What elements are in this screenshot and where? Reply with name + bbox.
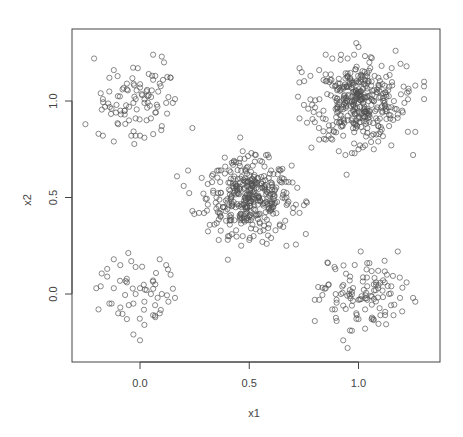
data-point [264,241,269,246]
data-point [395,115,400,120]
data-point [392,302,397,307]
data-point [338,52,343,57]
data-point [151,132,156,137]
data-point [240,149,245,154]
data-point [400,309,405,314]
data-point [391,99,396,104]
data-point [295,185,300,190]
data-point [111,68,116,73]
data-point [126,250,131,255]
data-point [168,272,173,277]
scatter-plot: 0.00.51.0 0.00.51.0 x1 x2 [0,0,463,437]
data-point [371,147,376,152]
data-point [159,54,164,59]
data-point [283,218,288,223]
data-point [118,263,123,268]
data-point [345,345,350,350]
data-point [405,97,410,102]
data-point [340,290,345,295]
data-point [199,175,204,180]
data-point [389,66,394,71]
data-point [413,83,418,88]
data-point [141,307,146,312]
data-point [201,191,206,196]
data-point [290,180,295,185]
data-point [142,135,147,140]
data-point [234,228,239,233]
data-point [138,82,143,87]
y-tick-label: 0.5 [47,190,59,205]
data-point [190,125,195,130]
data-point [422,97,427,102]
data-point [312,318,317,323]
data-point [395,249,400,254]
data-point [218,228,223,233]
data-point [181,183,186,188]
data-point [397,295,402,300]
data-point [218,180,223,185]
data-point [239,243,244,248]
data-point [393,48,398,53]
data-point [134,88,139,93]
data-point [341,338,346,343]
data-point [142,322,147,327]
data-point [398,61,403,66]
data-point [94,286,99,291]
data-point [108,111,113,116]
data-point [118,305,123,310]
data-point [289,163,294,168]
data-point [328,72,333,77]
data-point [297,210,302,215]
data-point [130,286,135,291]
data-point [222,155,227,160]
x-tick-label: 0.0 [132,377,147,389]
data-point [284,243,289,248]
data-point [364,267,369,272]
data-point [380,288,385,293]
data-point [330,56,335,61]
data-point [140,264,145,269]
data-point [130,76,135,81]
data-point [304,120,309,125]
data-point [113,110,118,115]
data-point [371,121,376,126]
data-point [362,54,367,59]
y-axis: 0.00.51.0 [47,93,72,301]
data-point [349,303,354,308]
data-point [134,107,139,112]
data-point [344,172,349,177]
data-point [111,257,116,262]
data-point [336,149,341,154]
y-tick-label: 0.0 [47,286,59,301]
data-point [384,322,389,327]
data-point [293,242,298,247]
data-point [83,122,88,127]
data-point [352,52,357,57]
data-point [340,284,345,289]
data-point [151,286,156,291]
data-point [363,326,368,331]
data-point [321,108,326,113]
data-point [166,95,171,100]
data-point [227,168,232,173]
data-point [363,307,368,312]
data-point [92,56,97,61]
data-point [131,332,136,337]
data-point [186,168,191,173]
data-point [240,234,245,239]
data-point [385,283,390,288]
data-point [205,229,210,234]
data-point [295,94,300,99]
x-tick-label: 1.0 [351,377,366,389]
data-point [260,159,265,164]
data-point [411,152,416,157]
data-point [333,315,338,320]
x-axis-title: x1 [248,407,260,419]
data-point [129,259,134,264]
data-point [164,100,169,105]
data-point [405,129,410,134]
data-point [99,107,104,112]
data-point [333,292,338,297]
data-point [390,273,395,278]
data-point [273,228,278,233]
